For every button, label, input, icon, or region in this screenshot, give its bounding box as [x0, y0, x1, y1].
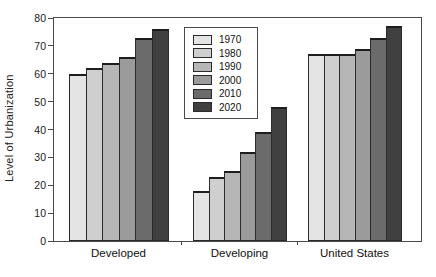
legend-label: 1980	[219, 48, 241, 59]
y-tick-label: 80	[20, 12, 46, 24]
y-tick-label: 40	[20, 124, 46, 136]
legend-label: 1970	[219, 34, 241, 45]
legend-swatch	[193, 89, 212, 99]
legend-item: 1970	[193, 34, 257, 45]
legend-swatch	[193, 102, 212, 112]
y-axis-title: Level of Urbanization	[3, 17, 15, 240]
legend-swatch	[193, 48, 212, 58]
legend-label: 1990	[219, 61, 241, 72]
legend-item: 1980	[193, 48, 257, 59]
bar-developing-2010	[255, 132, 272, 241]
bar-united-states-2000	[355, 49, 372, 241]
y-tick-label: 50	[20, 96, 46, 108]
y-axis-tick	[48, 129, 54, 130]
bar-united-states-1970	[308, 54, 325, 241]
plot-area: 197019801990200020102020 010203040506070…	[53, 17, 422, 242]
bar-developed-1990	[102, 63, 120, 241]
bar-developing-1990	[224, 171, 241, 241]
x-axis-tick	[297, 241, 298, 245]
bar-developing-1980	[209, 177, 226, 241]
y-tick-label: 30	[20, 151, 46, 163]
y-tick-label: 60	[20, 68, 46, 80]
legend-item: 2000	[193, 75, 257, 86]
x-category-label: Developing	[180, 247, 300, 259]
bar-developed-2010	[135, 38, 153, 241]
legend-item: 2020	[193, 102, 257, 113]
y-tick-label: 0	[20, 235, 46, 247]
y-axis-tick	[48, 45, 54, 46]
y-axis-tick	[48, 73, 54, 74]
legend-item: 1990	[193, 61, 257, 72]
bar-developed-2020	[152, 29, 170, 241]
legend-item: 2010	[193, 88, 257, 99]
bar-united-states-1980	[324, 54, 341, 241]
y-axis-tick	[48, 101, 54, 102]
y-axis-tick	[48, 185, 54, 186]
legend-swatch	[193, 35, 212, 45]
y-tick-label: 10	[20, 207, 46, 219]
legend-label: 2020	[219, 102, 241, 113]
y-axis-tick	[48, 157, 54, 158]
y-axis-tick	[48, 18, 54, 19]
y-axis-tick	[48, 241, 54, 242]
x-axis-tick	[181, 241, 182, 245]
bar-developing-2020	[271, 107, 288, 241]
bar-developed-2000	[119, 57, 137, 241]
bar-developed-1980	[86, 68, 104, 241]
legend-label: 2010	[219, 88, 241, 99]
legend-label: 2000	[219, 75, 241, 86]
legend: 197019801990200020102020	[184, 27, 258, 119]
x-category-label: Developed	[59, 247, 179, 259]
bar-united-states-2020	[386, 26, 403, 241]
y-tick-label: 70	[20, 40, 46, 52]
y-axis-tick	[48, 213, 54, 214]
legend-swatch	[193, 62, 212, 72]
bar-developing-2000	[240, 152, 257, 241]
y-tick-label: 20	[20, 179, 46, 191]
bar-united-states-2010	[370, 38, 387, 241]
bar-developing-1970	[193, 191, 210, 241]
urbanization-bar-chart: Level of Urbanization 197019801990200020…	[0, 0, 436, 277]
x-category-label: United States	[295, 247, 415, 259]
legend-swatch	[193, 75, 212, 85]
bar-developed-1970	[69, 74, 87, 241]
bar-united-states-1990	[339, 54, 356, 241]
